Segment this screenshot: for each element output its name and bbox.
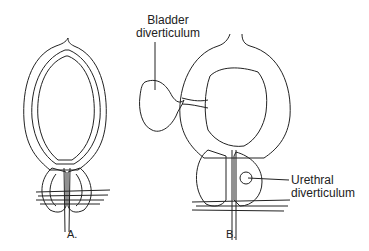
urethral-label-line2: diverticulum bbox=[291, 187, 355, 200]
panel-b-label: B. bbox=[226, 228, 236, 241]
bladder-label-line2: diverticulum bbox=[128, 27, 208, 40]
panel-a-label: A. bbox=[67, 228, 77, 241]
panel-b-bladder bbox=[180, 34, 290, 240]
urethral-leader-line bbox=[248, 178, 289, 180]
leader-lines bbox=[155, 42, 289, 180]
bladder-diverticulum-sac bbox=[140, 80, 185, 131]
bladder-diverticulum-label: Bladder diverticulum bbox=[128, 14, 208, 40]
urethral-diverticulum-label: Urethral diverticulum bbox=[291, 174, 355, 200]
panel-a-bladder bbox=[24, 38, 110, 232]
